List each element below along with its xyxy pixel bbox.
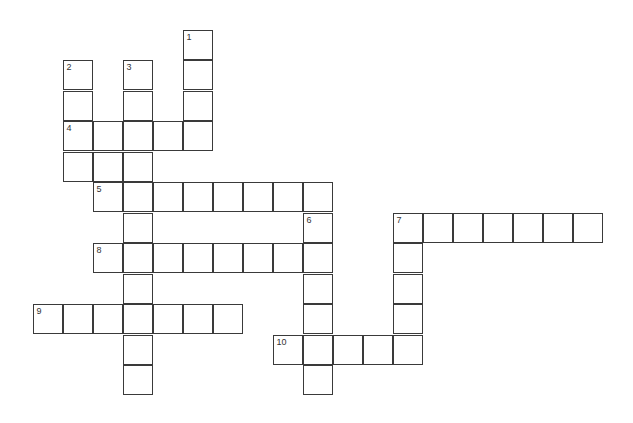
crossword-cell[interactable] — [123, 152, 153, 182]
crossword-cell[interactable] — [393, 274, 423, 304]
crossword-cell[interactable] — [183, 60, 213, 90]
crossword-cell[interactable] — [453, 213, 483, 243]
crossword-cell[interactable] — [243, 243, 273, 273]
crossword-cell[interactable] — [273, 182, 303, 212]
crossword-cell[interactable] — [183, 243, 213, 273]
crossword-cell[interactable] — [363, 335, 393, 365]
crossword-cell[interactable] — [153, 243, 183, 273]
crossword-cell[interactable]: 5 — [93, 182, 123, 212]
crossword-cell[interactable]: 6 — [303, 213, 333, 243]
crossword-cell[interactable] — [93, 121, 123, 151]
crossword-cell[interactable] — [513, 213, 543, 243]
crossword-cell[interactable]: 8 — [93, 243, 123, 273]
crossword-cell[interactable] — [243, 182, 273, 212]
crossword-cell[interactable] — [423, 213, 453, 243]
clue-number: 7 — [397, 216, 402, 225]
crossword-cell[interactable] — [213, 304, 243, 334]
crossword-grid: 12435678910 — [0, 0, 633, 423]
crossword-cell[interactable] — [63, 152, 93, 182]
crossword-cell[interactable] — [393, 304, 423, 334]
clue-number: 2 — [67, 63, 72, 72]
crossword-cell[interactable] — [303, 335, 333, 365]
crossword-cell[interactable]: 9 — [33, 304, 63, 334]
clue-number: 1 — [187, 33, 192, 42]
crossword-cell[interactable]: 10 — [273, 335, 303, 365]
crossword-cell[interactable] — [333, 335, 363, 365]
clue-number: 10 — [277, 338, 287, 347]
crossword-cell[interactable] — [303, 182, 333, 212]
crossword-cell[interactable] — [183, 121, 213, 151]
crossword-cell[interactable] — [123, 91, 153, 121]
crossword-cell[interactable] — [183, 304, 213, 334]
crossword-cell[interactable] — [63, 304, 93, 334]
clue-number: 8 — [97, 246, 102, 255]
crossword-cell[interactable] — [213, 182, 243, 212]
crossword-cell[interactable] — [303, 365, 333, 395]
crossword-cell[interactable] — [393, 243, 423, 273]
crossword-cell[interactable]: 4 — [63, 121, 93, 151]
clue-number: 3 — [127, 63, 132, 72]
crossword-cell[interactable]: 1 — [183, 30, 213, 60]
clue-number: 9 — [37, 307, 42, 316]
crossword-cell[interactable] — [573, 213, 603, 243]
crossword-cell[interactable] — [93, 304, 123, 334]
crossword-cell[interactable] — [63, 91, 93, 121]
clue-number: 6 — [307, 216, 312, 225]
crossword-cell[interactable] — [153, 304, 183, 334]
crossword-cell[interactable] — [123, 121, 153, 151]
crossword-cell[interactable] — [123, 274, 153, 304]
crossword-cell[interactable] — [303, 304, 333, 334]
crossword-cell[interactable] — [123, 213, 153, 243]
crossword-cell[interactable] — [123, 304, 153, 334]
crossword-cell[interactable] — [183, 91, 213, 121]
crossword-cell[interactable] — [93, 152, 123, 182]
crossword-cell[interactable] — [123, 365, 153, 395]
crossword-cell[interactable] — [123, 182, 153, 212]
crossword-cell[interactable] — [303, 274, 333, 304]
crossword-cell[interactable] — [483, 213, 513, 243]
crossword-cell[interactable] — [123, 335, 153, 365]
crossword-cell[interactable]: 2 — [63, 60, 93, 90]
crossword-cell[interactable] — [183, 182, 213, 212]
crossword-cell[interactable] — [303, 243, 333, 273]
crossword-cell[interactable] — [393, 335, 423, 365]
clue-number: 4 — [67, 124, 72, 133]
crossword-cell[interactable] — [123, 243, 153, 273]
crossword-cell[interactable] — [273, 243, 303, 273]
crossword-cell[interactable] — [543, 213, 573, 243]
crossword-cell[interactable] — [153, 121, 183, 151]
crossword-cell[interactable]: 3 — [123, 60, 153, 90]
clue-number: 5 — [97, 185, 102, 194]
crossword-cell[interactable] — [213, 243, 243, 273]
crossword-cell[interactable]: 7 — [393, 213, 423, 243]
crossword-cell[interactable] — [153, 182, 183, 212]
